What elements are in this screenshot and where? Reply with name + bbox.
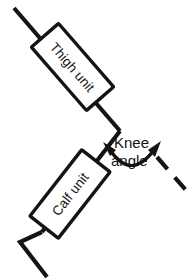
knee-angle-label: Knee angle bbox=[111, 134, 149, 169]
foot-bend-line bbox=[20, 232, 47, 277]
knee-angle-label-line2: angle bbox=[111, 152, 148, 169]
knee-angle-label-line1: Knee bbox=[114, 134, 149, 151]
calf-unit-box: Calf unit bbox=[30, 150, 110, 238]
knee-angle-diagram: Thigh unit Calf unit Knee angle bbox=[0, 0, 196, 280]
dashed-line-icon bbox=[157, 157, 191, 196]
diagram-canvas: Thigh unit Calf unit Knee angle bbox=[0, 0, 196, 280]
thigh-unit-box: Thigh unit bbox=[31, 23, 113, 110]
